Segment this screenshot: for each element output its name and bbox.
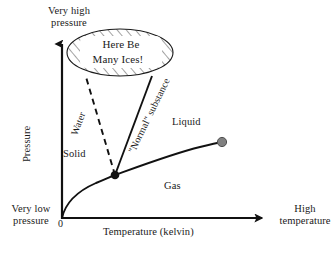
phase-diagram-figure: Very high pressure Very low pressure Hig… — [0, 0, 332, 259]
y-axis-title: Pressure — [21, 109, 33, 179]
region-label-liquid: Liquid — [172, 116, 201, 128]
critical-point-marker — [217, 137, 226, 146]
x-axis-title: Temperature (kelvin) — [103, 226, 194, 238]
y-axis-bottom-label-line1: Very low — [11, 203, 50, 214]
x-axis-right-label: High temperature — [278, 203, 332, 227]
vaporization-curve — [62, 142, 222, 218]
callout-line2: Many Ices! — [75, 53, 161, 65]
x-axis-right-label-line2: temperature — [279, 215, 330, 226]
region-label-solid: Solid — [63, 148, 86, 160]
y-axis-bottom-label: Very low pressure — [2, 203, 60, 227]
water-fusion-curve — [86, 77, 115, 175]
callout-line1: Here Be — [78, 38, 164, 50]
region-label-gas: Gas — [164, 180, 181, 192]
y-axis-top-label-line2: pressure — [51, 17, 87, 28]
y-axis-bottom-label-line2: pressure — [13, 215, 49, 226]
triple-point-marker — [111, 171, 120, 180]
origin-label: 0 — [58, 218, 63, 229]
y-axis-top-label: Very high pressure — [32, 5, 106, 29]
y-axis-top-label-line1: Very high — [48, 5, 90, 16]
x-axis-right-label-line1: High — [294, 203, 315, 214]
